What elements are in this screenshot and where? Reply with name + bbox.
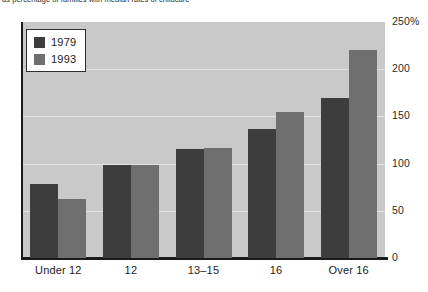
x-axis-tick-label: Under 12: [22, 264, 95, 276]
chart-legend: 19791993: [26, 29, 86, 72]
bar: [30, 184, 58, 258]
legend-label: 1979: [51, 36, 76, 48]
bar: [321, 98, 349, 258]
legend-swatch-icon: [34, 37, 45, 48]
x-axis-tick-label: Over 16: [312, 264, 385, 276]
bar: [176, 149, 204, 258]
bar: [103, 165, 131, 258]
bar: [204, 148, 232, 258]
y-axis-tick-label: 250%: [392, 15, 420, 27]
bar: [58, 199, 86, 258]
y-axis-tick-label: 150: [392, 109, 410, 121]
legend-item: 1979: [34, 35, 76, 49]
legend-item: 1993: [34, 52, 76, 66]
x-axis-tick-label: 13–15: [167, 264, 240, 276]
y-axis-tick-label: 0: [392, 251, 398, 263]
bar: [131, 165, 159, 258]
legend-label: 1993: [51, 53, 76, 65]
bar-chart: 250%200150100500 Under 121213–1516Over 1…: [0, 0, 428, 292]
y-axis-tick-label: 200: [392, 62, 410, 74]
bar: [276, 112, 304, 258]
x-axis-tick-label: 12: [95, 264, 168, 276]
x-axis-tick-label: 16: [240, 264, 313, 276]
legend-swatch-icon: [34, 54, 45, 65]
bar: [248, 129, 276, 258]
y-axis-tick-label: 50: [392, 204, 404, 216]
bar: [349, 50, 377, 258]
y-axis-tick-label: 100: [392, 157, 410, 169]
